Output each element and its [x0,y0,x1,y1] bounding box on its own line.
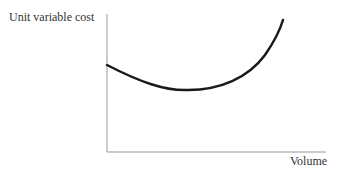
chart-plot [0,0,343,173]
cost-curve [107,20,283,90]
